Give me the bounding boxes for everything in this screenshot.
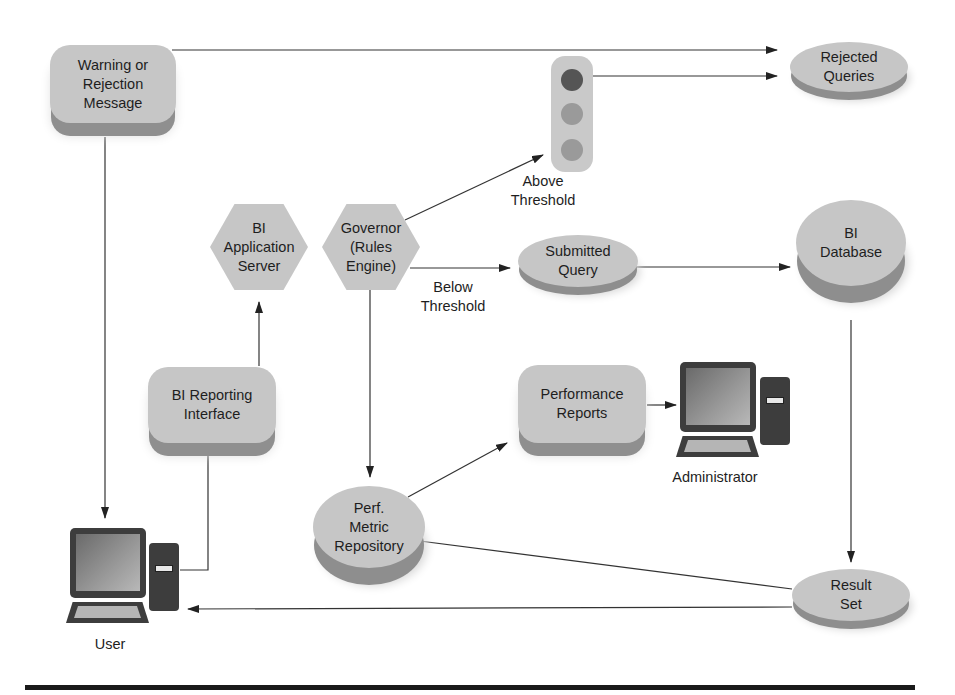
performance-reports-label: Performance Reports: [540, 385, 623, 423]
red-light: [561, 69, 583, 91]
performance-reports-node: Performance Reports: [518, 365, 646, 443]
edge-user-to-reporting: [180, 440, 208, 570]
above-threshold-label: Above Threshold: [498, 172, 588, 210]
bi-database-label: BI Database: [820, 224, 882, 262]
submitted-query-node: Submitted Query: [518, 235, 638, 287]
yellow-light: [561, 103, 583, 125]
traffic-light-icon: [551, 56, 593, 172]
submitted-query-label: Submitted Query: [545, 242, 610, 280]
edge-result-to-repo: [412, 540, 792, 589]
governor-label: Governor (Rules Engine): [341, 219, 401, 276]
bi-database-node: BI Database: [796, 200, 906, 286]
bottom-rule: [25, 685, 915, 690]
edge-result-to-user: [188, 607, 792, 609]
user-label: User: [70, 635, 150, 654]
result-set-node: Result Set: [792, 569, 910, 621]
administrator-label: Administrator: [655, 468, 775, 487]
warning-message-label: Warning or Rejection Message: [78, 56, 148, 113]
warning-message-node: Warning or Rejection Message: [50, 45, 176, 123]
rejected-queries-node: Rejected Queries: [790, 42, 908, 92]
edge-repo-to-reports: [408, 443, 507, 497]
bi-reporting-interface-node: BI Reporting Interface: [148, 367, 276, 443]
green-light: [561, 139, 583, 161]
rejected-queries-label: Rejected Queries: [820, 48, 877, 86]
below-threshold-label: Below Threshold: [408, 278, 498, 316]
bi-application-server-label: BI Application Server: [224, 219, 295, 276]
result-set-label: Result Set: [830, 576, 871, 614]
perf-metric-repository-node: Perf. Metric Repository: [313, 486, 425, 568]
perf-metric-repository-label: Perf. Metric Repository: [334, 499, 403, 556]
bi-reporting-interface-label: BI Reporting Interface: [172, 386, 253, 424]
